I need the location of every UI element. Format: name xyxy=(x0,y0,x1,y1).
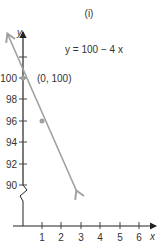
point-0-100 xyxy=(21,76,26,81)
x-tick-1: 1 xyxy=(39,232,45,243)
y-tick-92: 92 xyxy=(6,159,18,170)
chart-title: (i) xyxy=(85,8,94,19)
y-tick-96: 96 xyxy=(6,116,18,127)
y-tick-100: 100 xyxy=(0,73,17,84)
point-label: (0, 100) xyxy=(37,73,71,84)
x-tick-2: 2 xyxy=(58,232,64,243)
point-1-96 xyxy=(40,119,45,124)
x-axis: 1 2 3 4 5 6 x xyxy=(13,222,156,243)
x-tick-5: 5 xyxy=(117,232,123,243)
y-axis-label: y xyxy=(16,27,23,38)
equation-label: y = 100 − 4 x xyxy=(65,44,123,55)
y-tick-98: 98 xyxy=(6,94,18,105)
x-tick-4: 4 xyxy=(97,232,103,243)
y-axis: y 90 92 94 96 98 100 xyxy=(0,27,27,226)
data-line xyxy=(8,35,77,192)
y-tick-94: 94 xyxy=(6,137,18,148)
x-tick-6: 6 xyxy=(136,232,142,243)
x-tick-3: 3 xyxy=(78,232,84,243)
y-tick-90: 90 xyxy=(6,180,18,191)
x-axis-label: x xyxy=(149,231,156,242)
chart-canvas: (i) y = 100 − 4 x y 90 92 94 96 98 100 1… xyxy=(0,0,163,250)
